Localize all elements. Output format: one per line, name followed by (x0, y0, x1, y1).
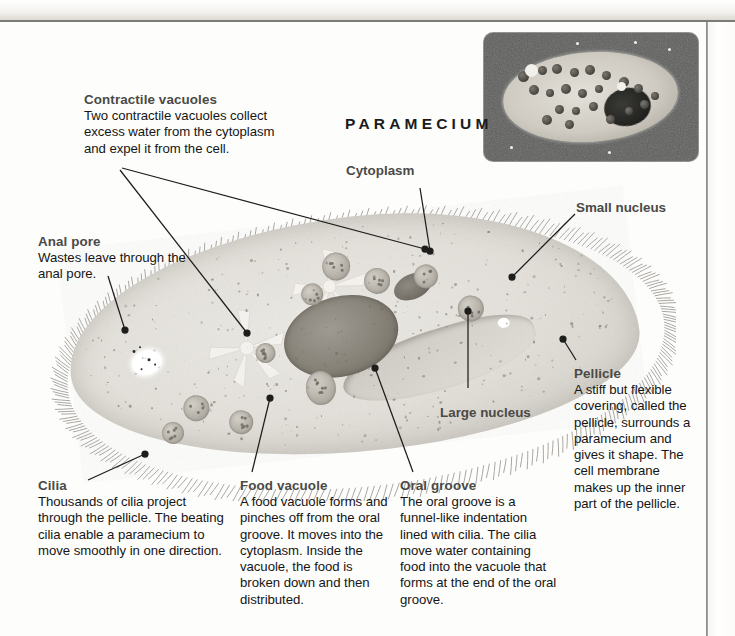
callout-body: A stiff but flexible covering, called th… (574, 382, 698, 512)
callout-body: Thousands of cilia project through the p… (38, 494, 228, 559)
callout-oral-groove: Oral groove The oral groove is a funnel-… (400, 478, 558, 608)
callout-heading: Contractile vacuoles (84, 92, 294, 108)
callout-anal-pore: Anal pore Wastes leave through the anal … (38, 234, 213, 283)
label-cytoplasm: Cytoplasm (346, 163, 414, 178)
callout-body: Two contractile vacuoles collect excess … (84, 108, 294, 157)
callout-pellicle: Pellicle A stiff but flexible covering, … (574, 366, 698, 512)
callout-heading: Pellicle (574, 366, 698, 382)
micrograph-contractile-vacuole (525, 64, 538, 77)
paramecium-micrograph (484, 33, 698, 161)
callout-heading: Food vacuole (240, 478, 395, 494)
callout-cilia: Cilia Thousands of cilia project through… (38, 478, 228, 559)
callout-heading: Cilia (38, 478, 228, 494)
page-right-edge (706, 22, 708, 636)
page-top-haze (0, 0, 735, 20)
callout-body: Wastes leave through the anal pore. (38, 250, 213, 283)
callout-heading: Anal pore (38, 234, 213, 250)
label-large-nucleus: Large nucleus (440, 405, 531, 420)
page-top-edge (0, 20, 735, 22)
callout-contractile-vacuoles: Contractile vacuoles Two contractile vac… (84, 92, 294, 157)
figure-title: PARAMECIUM (345, 115, 493, 133)
callout-heading: Oral groove (400, 478, 558, 494)
callout-food-vacuole: Food vacuole A food vacuole forms and pi… (240, 478, 395, 608)
label-small-nucleus: Small nucleus (576, 200, 666, 215)
page-right-margin (708, 22, 735, 636)
callout-body: A food vacuole forms and pinches off fro… (240, 494, 395, 608)
callout-body: The oral groove is a funnel-like indenta… (400, 494, 558, 608)
